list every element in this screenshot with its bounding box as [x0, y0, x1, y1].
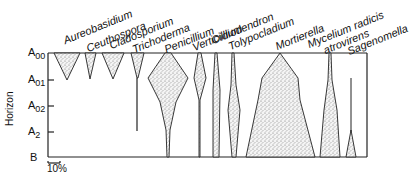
horizon-a2: A2: [28, 125, 40, 140]
kite-mortierella: [246, 53, 315, 157]
horizon-a01-sub: 01: [35, 78, 45, 88]
horizon-a02-sub: 02: [35, 104, 45, 114]
kite-ceuthospora: [85, 53, 96, 79]
horizon-a01: A01: [28, 73, 45, 88]
horizon-a2-sub: 2: [35, 130, 40, 140]
horizon-a02: A02: [28, 99, 45, 114]
kite-aureobasidium: [54, 53, 80, 80]
kite-sagenomella: [346, 130, 356, 157]
kite-diagram: Aureobasidium Ceuthospora Cladosporium T…: [0, 0, 415, 179]
kite-penicillium: [148, 53, 188, 157]
kite-oidiodendron: [213, 53, 220, 157]
axes-frame: [48, 53, 367, 163]
scale-bar-label: 10%: [47, 163, 67, 174]
kite-tolypocladium: [228, 53, 240, 157]
kite-mycelium: [320, 53, 340, 157]
horizon-a00: A00: [28, 46, 45, 61]
kite-verticillium: [194, 53, 206, 157]
horizon-b: B: [30, 151, 37, 163]
kite-cladosporium: [102, 53, 124, 79]
y-axis-label: Horizon: [4, 92, 15, 126]
kite-trichoderma: [131, 53, 144, 78]
horizon-a00-sub: 00: [35, 51, 45, 61]
